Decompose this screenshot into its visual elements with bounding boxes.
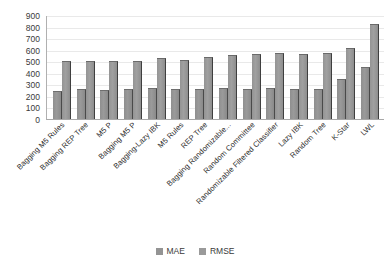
bar-mae[interactable]	[361, 67, 370, 119]
bar-rmse[interactable]	[346, 48, 355, 119]
bar-group	[335, 16, 359, 119]
legend-item[interactable]: MAE	[156, 247, 185, 256]
bar-rmse[interactable]	[252, 54, 261, 119]
bar-rmse[interactable]	[204, 57, 213, 119]
bar-rmse[interactable]	[370, 24, 379, 119]
bar-mae[interactable]	[266, 88, 275, 119]
bar-group	[358, 16, 382, 119]
legend-swatch-icon	[199, 248, 206, 255]
bar-rmse[interactable]	[86, 61, 95, 119]
y-axis-tick: 900	[26, 12, 40, 20]
legend-label: RMSE	[210, 247, 235, 256]
bar-mae[interactable]	[219, 88, 228, 119]
bar-group	[192, 16, 216, 119]
bar-mae[interactable]	[100, 90, 109, 119]
y-axis-tick: 800	[26, 24, 40, 32]
legend-item[interactable]: RMSE	[199, 247, 235, 256]
bar-groups	[47, 16, 384, 119]
y-axis-tick: 600	[26, 47, 40, 55]
y-axis-tick: 700	[26, 35, 40, 43]
legend-swatch-icon	[156, 248, 163, 255]
bar-mae[interactable]	[124, 89, 133, 119]
y-axis-tick: 300	[26, 81, 40, 89]
bar-group	[240, 16, 264, 119]
bar-group	[74, 16, 98, 119]
chart-legend: MAERMSE	[0, 247, 390, 256]
y-axis: 9008007006005004003002001000	[0, 10, 44, 126]
bar-rmse[interactable]	[323, 53, 332, 119]
bar-chart-figure: 9008007006005004003002001000 Bagging M5 …	[0, 0, 390, 264]
bar-mae[interactable]	[53, 91, 62, 119]
x-axis-label: K-Star	[331, 121, 352, 142]
bar-rmse[interactable]	[62, 61, 71, 119]
bar-group	[50, 16, 74, 119]
x-axis: Bagging M5 RulesBagging REP TreeM5 PBagg…	[46, 121, 384, 221]
bar-mae[interactable]	[77, 89, 86, 119]
x-axis-label: LWL	[359, 121, 376, 138]
x-axis-label: Bagging-Lazy IBK	[112, 121, 162, 171]
bar-mae[interactable]	[171, 89, 180, 119]
bar-mae[interactable]	[337, 79, 346, 119]
bar-mae[interactable]	[148, 88, 157, 119]
x-axis-label: M5 P	[96, 121, 114, 139]
bar-group	[311, 16, 335, 119]
bar-mae[interactable]	[195, 89, 204, 119]
bar-group	[169, 16, 193, 119]
y-axis-tick: 500	[26, 58, 40, 66]
bar-group	[145, 16, 169, 119]
bar-group	[216, 16, 240, 119]
bar-rmse[interactable]	[299, 54, 308, 119]
plot-area	[46, 16, 384, 120]
bar-group	[97, 16, 121, 119]
y-axis-tick: 0	[35, 116, 40, 124]
bar-rmse[interactable]	[133, 61, 142, 119]
bar-rmse[interactable]	[275, 53, 284, 119]
bar-rmse[interactable]	[157, 58, 166, 119]
y-axis-tick: 100	[26, 104, 40, 112]
bar-rmse[interactable]	[180, 60, 189, 119]
legend-label: MAE	[167, 247, 185, 256]
bar-mae[interactable]	[290, 89, 299, 119]
bar-group	[263, 16, 287, 119]
bar-group	[287, 16, 311, 119]
bar-mae[interactable]	[314, 89, 323, 119]
y-axis-tick: 400	[26, 70, 40, 78]
y-axis-tick: 200	[26, 93, 40, 101]
x-axis-label: Bagging REP Tree	[39, 121, 90, 172]
bar-group	[121, 16, 145, 119]
bar-mae[interactable]	[243, 89, 252, 119]
bar-rmse[interactable]	[228, 55, 237, 119]
bar-rmse[interactable]	[109, 61, 118, 119]
